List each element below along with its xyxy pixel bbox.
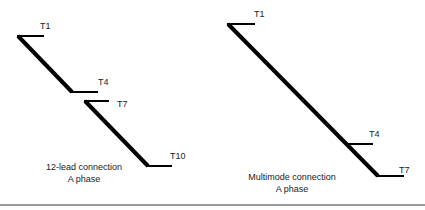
winding-multimode <box>227 24 404 176</box>
winding-connection-figure: T1 T4 T7 T10 12-lead connection A phase … <box>0 0 425 210</box>
terminal-label-t7-right: T7 <box>399 165 410 175</box>
caption-12-lead-line1: 12-lead connection <box>46 161 122 173</box>
winding-lines <box>0 0 425 210</box>
terminal-label-t7-left: T7 <box>117 99 128 109</box>
caption-multimode-line2: A phase <box>276 183 309 195</box>
terminal-label-t4-right: T4 <box>369 129 380 139</box>
caption-12-lead-line2: A phase <box>68 173 101 185</box>
winding-12-lead-t1-t4 <box>17 36 98 92</box>
caption-multimode-line1: Multimode connection <box>248 171 336 183</box>
terminal-label-t1-right: T1 <box>254 9 265 19</box>
winding-12-lead-t7-t10 <box>84 101 172 166</box>
terminal-label-t4-left: T4 <box>98 77 109 87</box>
bottom-divider <box>0 204 425 206</box>
terminal-label-t1-left: T1 <box>40 21 51 31</box>
terminal-label-t10-left: T10 <box>170 151 186 161</box>
